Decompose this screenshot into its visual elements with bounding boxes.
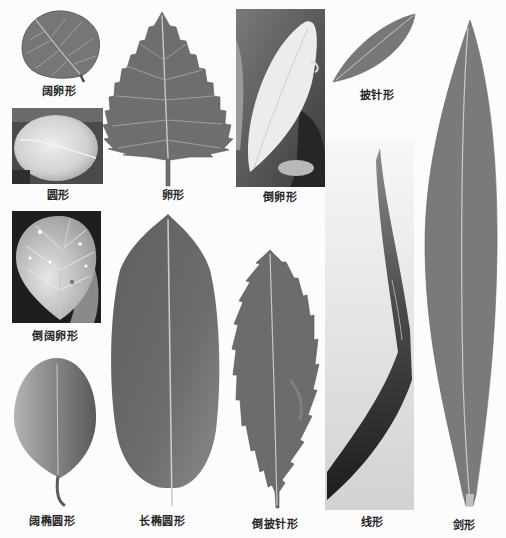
caption-broad-obovate: 倒阔卵形: [31, 329, 78, 343]
leaf-broad-elliptic: [14, 358, 96, 505]
caption-orbicular: 圆形: [47, 189, 70, 202]
leaf-broad-ovate: [22, 11, 99, 82]
leaf-shape-figure: 阔卵形 圆形 卵形 倒卵形 披针形 倒阔卵形 阔椭圆形 长椭圆形 倒披针形 线形…: [0, 0, 506, 538]
leaf-lanceolate: [333, 14, 415, 82]
caption-linear: 线形: [361, 515, 384, 529]
leaf-broad-obovate-photo: [12, 211, 101, 323]
caption-ovate: 卵形: [162, 188, 185, 202]
leaf-linear-photo: [325, 140, 414, 510]
leaf-oblanceolate: [232, 250, 319, 508]
caption-obovate: 倒卵形: [262, 190, 298, 204]
leaf-oblong: [111, 214, 219, 505]
caption-oblong: 长椭圆形: [139, 514, 185, 528]
leaf-ovate: [103, 12, 233, 186]
leaf-orbicular-photo: [12, 108, 103, 184]
caption-oblanceolate: 倒披针形: [251, 517, 298, 531]
leaf-obovate-photo: [236, 9, 325, 187]
caption-lanceolate: 披针形: [360, 88, 395, 102]
caption-broad-ovate: 阔卵形: [42, 84, 77, 98]
caption-broad-elliptic: 阔椭圆形: [29, 514, 75, 528]
caption-ensiform: 剑形: [452, 518, 476, 532]
leaf-ensiform: [425, 20, 497, 506]
